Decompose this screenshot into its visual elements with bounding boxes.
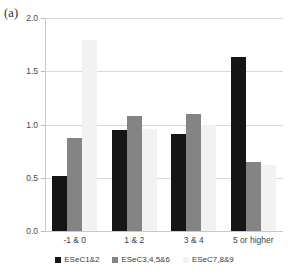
legend-item: ESeC1&2	[55, 256, 99, 264]
bar-group	[105, 18, 165, 231]
y-tick-label: 1.5	[26, 67, 38, 76]
y-tick-label: 1.0	[26, 120, 38, 129]
y-tick-label: 0.0	[26, 227, 38, 236]
bar	[127, 116, 142, 231]
panel-label: (a)	[4, 6, 18, 21]
y-tick-mark	[41, 231, 45, 232]
legend-swatch-icon	[55, 257, 61, 263]
bar	[186, 114, 201, 231]
legend-label: ESeC3,4,5&6	[121, 256, 169, 264]
x-tick-label: 3 & 4	[184, 236, 204, 245]
bar	[142, 129, 157, 231]
bar	[171, 134, 186, 231]
chart-figure: (a) 0.00.51.01.52.0 -1 & 01 & 23 & 45 or…	[0, 0, 289, 277]
legend-label: ESeC7,8&9	[192, 256, 234, 264]
bar	[52, 176, 67, 231]
bar	[231, 57, 246, 231]
y-tick-label: 2.0	[26, 14, 38, 23]
bar	[201, 125, 216, 232]
y-tick-label: 0.5	[26, 174, 38, 183]
chart-legend: ESeC1&2ESeC3,4,5&6ESeC7,8&9	[0, 256, 289, 264]
legend-item: ESeC7,8&9	[183, 256, 234, 264]
legend-label: ESeC1&2	[64, 256, 99, 264]
bar	[82, 40, 97, 231]
plot-area: 0.00.51.01.52.0	[45, 18, 283, 231]
bar-group	[45, 18, 105, 231]
x-tick-label: 5 or higher	[233, 236, 274, 245]
bar	[67, 138, 82, 231]
bar-group	[164, 18, 224, 231]
legend-item: ESeC3,4,5&6	[112, 256, 169, 264]
bar	[112, 130, 127, 231]
x-tick-label: -1 & 0	[63, 236, 86, 245]
bar	[246, 162, 261, 231]
legend-swatch-icon	[112, 257, 118, 263]
bar	[261, 165, 276, 231]
x-tick-label: 1 & 2	[124, 236, 144, 245]
bar-group	[224, 18, 284, 231]
legend-swatch-icon	[183, 257, 189, 263]
gridline	[45, 231, 283, 232]
